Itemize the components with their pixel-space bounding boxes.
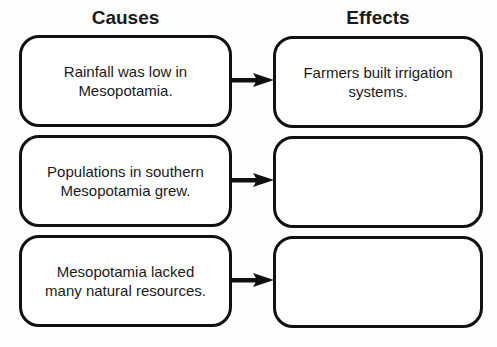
effect-box-3[interactable]	[273, 236, 483, 328]
arrow-right-icon	[231, 272, 275, 288]
arrow-right-icon	[231, 172, 275, 188]
effect-box-2[interactable]	[273, 136, 483, 228]
arrow-right-icon	[231, 72, 275, 88]
effects-heading: Effects	[273, 7, 483, 29]
causes-heading: Causes	[19, 7, 232, 29]
cause-box-2: Populations in southern Mesopotamia grew…	[19, 135, 232, 227]
cause-box-3: Mesopotamia lacked many natural resource…	[19, 235, 232, 327]
effect-box-1[interactable]: Farmers built irrigation systems.	[273, 36, 483, 128]
cause-box-1: Rainfall was low in Mesopotamia.	[19, 35, 232, 127]
